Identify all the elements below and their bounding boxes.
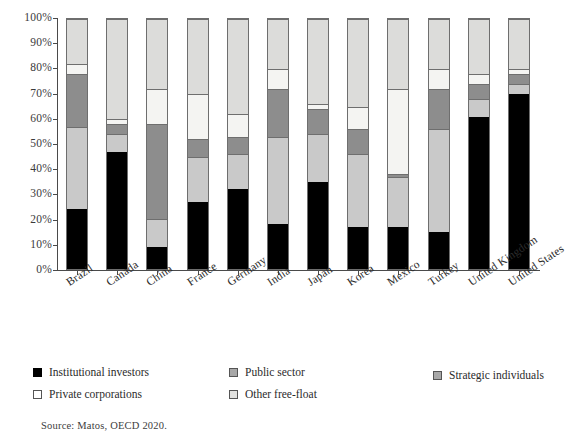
bar-segment-institutional[interactable] [228,189,248,269]
bar-segment-public[interactable] [469,84,489,99]
bar-segment-strategic[interactable] [469,99,489,117]
bar-group[interactable] [307,18,329,270]
bar-segment-institutional[interactable] [107,152,127,270]
bar-group[interactable] [468,18,490,270]
bar-segment-public[interactable] [147,124,167,219]
bar-segment-private[interactable] [268,69,288,89]
stacked-bar[interactable] [66,18,88,270]
bar-group[interactable] [66,18,88,270]
bar-segment-strategic[interactable] [348,154,368,227]
bar-group[interactable] [187,18,209,270]
stacked-bar[interactable] [387,18,409,270]
legend-label: Institutional investors [49,366,149,379]
bar-segment-strategic[interactable] [107,134,127,152]
bar-segment-institutional[interactable] [188,202,208,269]
bar-segment-private[interactable] [348,107,368,130]
bar-segment-institutional[interactable] [308,182,328,270]
bar-segment-private[interactable] [388,89,408,174]
stacked-bar[interactable] [187,18,209,270]
bar-segment-strategic[interactable] [509,84,529,94]
stacked-bar[interactable] [267,18,289,270]
chart-legend: Institutional investorsPublic sectorStra… [33,366,543,408]
bar-segment-private[interactable] [469,74,489,84]
bar-segment-freefloat[interactable] [509,19,529,69]
bar-segment-private[interactable] [188,94,208,139]
bar-segment-freefloat[interactable] [348,19,368,107]
bar-group[interactable] [227,18,249,270]
y-axis-tick-label: 50% [6,138,52,150]
bar-segment-public[interactable] [308,109,328,134]
bar-group[interactable] [508,18,530,270]
bar-group[interactable] [387,18,409,270]
y-axis-tick-label: 90% [6,37,52,49]
bar-segment-strategic[interactable] [308,134,328,182]
bar-segment-freefloat[interactable] [67,19,87,64]
bar-segment-strategic[interactable] [228,154,248,189]
bar-segment-institutional[interactable] [268,224,288,269]
legend-swatch-strategic-icon [433,371,442,380]
bar-segment-freefloat[interactable] [388,19,408,89]
bar-segment-freefloat[interactable] [228,19,248,114]
bar-segment-institutional[interactable] [348,227,368,269]
stacked-bar[interactable] [428,18,450,270]
bar-segment-freefloat[interactable] [429,19,449,69]
bar-segment-strategic[interactable] [268,137,288,225]
y-axis-tick-label: 40% [6,163,52,175]
bar-segment-public[interactable] [188,139,208,157]
bar-group[interactable] [428,18,450,270]
y-axis-tick-label: 100% [6,12,52,24]
legend-item-public[interactable]: Public sector [229,366,305,379]
legend-item-freefloat[interactable]: Other free-float [229,388,317,401]
bar-segment-private[interactable] [228,114,248,137]
bar-segment-institutional[interactable] [67,209,87,269]
y-axis-tick-label: 80% [6,62,52,74]
bar-segment-freefloat[interactable] [147,19,167,89]
legend-item-strategic[interactable]: Strategic individuals [433,369,544,382]
bar-segment-freefloat[interactable] [469,19,489,74]
bar-segment-public[interactable] [268,89,288,137]
bar-segment-public[interactable] [107,124,127,134]
y-axis-tick-mark [53,270,57,271]
bar-segment-public[interactable] [509,74,529,84]
bar-segment-public[interactable] [429,89,449,129]
bar-segment-freefloat[interactable] [107,19,127,119]
bar-segment-strategic[interactable] [147,219,167,247]
bar-segment-private[interactable] [429,69,449,89]
stacked-bar[interactable] [468,18,490,270]
y-axis-tick-label: 20% [6,214,52,226]
bar-segment-freefloat[interactable] [268,19,288,69]
bar-segment-strategic[interactable] [388,177,408,227]
bar-segment-public[interactable] [228,137,248,155]
legend-label: Strategic individuals [449,369,544,382]
legend-swatch-public-icon [229,368,238,377]
stacked-bar[interactable] [307,18,329,270]
y-axis-tick-label: 0% [6,264,52,276]
stacked-bar[interactable] [347,18,369,270]
stacked-bar[interactable] [227,18,249,270]
stacked-bar[interactable] [146,18,168,270]
bar-segment-strategic[interactable] [67,127,87,210]
legend-label: Private corporations [49,388,142,401]
bar-segment-strategic[interactable] [429,129,449,232]
legend-swatch-freefloat-icon [229,390,238,399]
bar-segment-public[interactable] [348,129,368,154]
bar-group[interactable] [347,18,369,270]
bar-segment-private[interactable] [67,64,87,74]
stacked-bar[interactable] [508,18,530,270]
bar-group[interactable] [146,18,168,270]
legend-swatch-institutional-icon [33,368,42,377]
legend-item-private[interactable]: Private corporations [33,388,142,401]
bar-group[interactable] [267,18,289,270]
bar-segment-freefloat[interactable] [188,19,208,94]
bar-segment-public[interactable] [67,74,87,127]
y-axis-tick-label: 30% [6,188,52,200]
legend-label: Other free-float [245,388,317,401]
bar-segment-strategic[interactable] [188,157,208,202]
stacked-bar[interactable] [106,18,128,270]
legend-item-institutional[interactable]: Institutional investors [33,366,149,379]
bar-segment-institutional[interactable] [469,117,489,270]
bar-group[interactable] [106,18,128,270]
bar-segment-freefloat[interactable] [308,19,328,104]
bar-segment-private[interactable] [147,89,167,124]
